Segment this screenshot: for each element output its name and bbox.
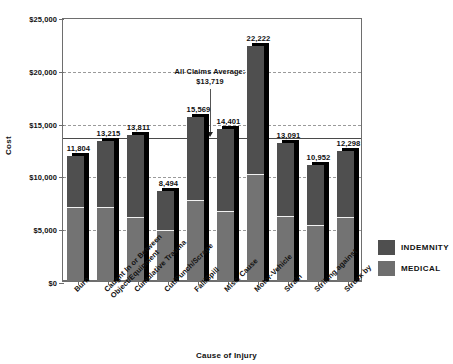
bar-group[interactable]: 14,401 — [217, 129, 240, 281]
bar-segment-medical[interactable] — [307, 225, 325, 281]
bar-segment-indemnity[interactable] — [67, 156, 85, 206]
bar-value-label: 15,569 — [187, 105, 211, 114]
bar-segment-indemnity[interactable] — [307, 165, 325, 224]
y-axis-tick-label: $0 — [48, 279, 57, 288]
bar-segment-indemnity[interactable] — [187, 117, 205, 200]
legend: INDEMNITYMEDICAL — [378, 240, 449, 276]
y-axis-tick — [59, 177, 64, 178]
y-axis-tick-label: $10,000 — [29, 173, 57, 182]
bar-value-label: 22,222 — [247, 34, 271, 43]
bar-value-label: 8,494 — [159, 179, 179, 188]
y-axis-tick-label: $25,000 — [29, 15, 57, 24]
legend-item[interactable]: INDEMNITY — [378, 240, 449, 255]
bar-group[interactable]: 22,222 — [247, 46, 270, 281]
legend-item[interactable]: MEDICAL — [378, 261, 449, 276]
bar-value-label: 13,091 — [277, 131, 301, 140]
y-axis-tick — [59, 19, 64, 20]
bar-stack[interactable] — [247, 46, 265, 281]
bar-segment-indemnity[interactable] — [247, 46, 265, 173]
bar-chart: Cost $0$5,000$10,000$15,000$20,000$25,00… — [0, 0, 453, 364]
legend-swatch-indemnity — [378, 240, 395, 255]
bar-stack[interactable] — [307, 165, 325, 281]
bar-segment-indemnity[interactable] — [277, 143, 295, 216]
bar-segment-indemnity[interactable] — [97, 141, 115, 207]
bar-stack[interactable] — [97, 141, 115, 281]
bar-segment-medical[interactable] — [67, 207, 85, 281]
bar-segment-medical[interactable] — [97, 207, 115, 281]
y-axis-tick — [59, 72, 64, 73]
y-axis-tick — [59, 230, 64, 231]
bar-stack[interactable] — [217, 129, 235, 281]
y-axis-tick-label: $20,000 — [29, 67, 57, 76]
bar-value-label: 13,811 — [127, 123, 150, 132]
bar-value-label: 14,401 — [217, 117, 241, 126]
x-axis-title: Cause of Injury — [0, 351, 453, 360]
bar-segment-indemnity[interactable] — [157, 191, 175, 230]
bar-stack[interactable] — [67, 156, 85, 281]
bar-value-label: 12,298 — [337, 139, 361, 148]
bar-value-label: 13,215 — [97, 129, 121, 138]
bar-value-label: 10,952 — [307, 153, 331, 162]
plot-area: $0$5,000$10,000$15,000$20,000$25,000 All… — [62, 18, 362, 282]
legend-label: MEDICAL — [401, 264, 441, 273]
bar-segment-indemnity[interactable] — [217, 129, 235, 211]
y-axis-tick — [59, 125, 64, 126]
bar-value-label: 11,804 — [67, 144, 90, 153]
y-axis-tick — [59, 283, 64, 284]
bar-group[interactable]: 13,215 — [97, 141, 120, 281]
y-axis-tick-label: $5,000 — [33, 226, 57, 235]
legend-swatch-medical — [378, 261, 395, 276]
bar-segment-indemnity[interactable] — [337, 151, 355, 217]
y-axis-tick-label: $15,000 — [29, 120, 57, 129]
bar-segment-indemnity[interactable] — [127, 135, 145, 216]
legend-label: INDEMNITY — [401, 243, 449, 252]
gridline — [63, 125, 361, 126]
y-axis-title: Cost — [4, 136, 13, 155]
bar-group[interactable]: 10,952 — [307, 165, 330, 281]
bar-group[interactable]: 11,804 — [67, 156, 90, 281]
